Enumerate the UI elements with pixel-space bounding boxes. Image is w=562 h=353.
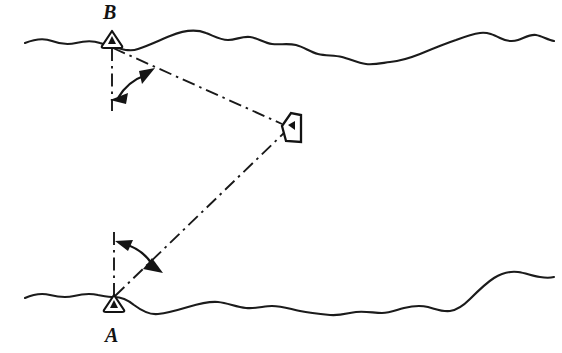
angle-arc-a-arrowhead-sightline [143, 258, 163, 273]
sight-line-a-to-vessel [115, 132, 285, 296]
sight-line-b-to-vessel-path [113, 48, 282, 124]
angle-arc-a-arrowhead-meridian [115, 240, 133, 251]
angle-arc-b [110, 68, 155, 104]
angle-arc-b-arrowhead-sightline [139, 68, 155, 84]
station-marker-b-icon [102, 31, 123, 48]
station-label-a: A [105, 325, 118, 345]
triangulation-figure: B A [0, 0, 562, 353]
figure-canvas [0, 0, 562, 353]
sight-line-b-to-vessel [113, 48, 282, 124]
sight-line-a-to-vessel-path [115, 132, 285, 296]
station-label-b: B [103, 2, 116, 22]
ship-symbol-icon [282, 113, 301, 142]
